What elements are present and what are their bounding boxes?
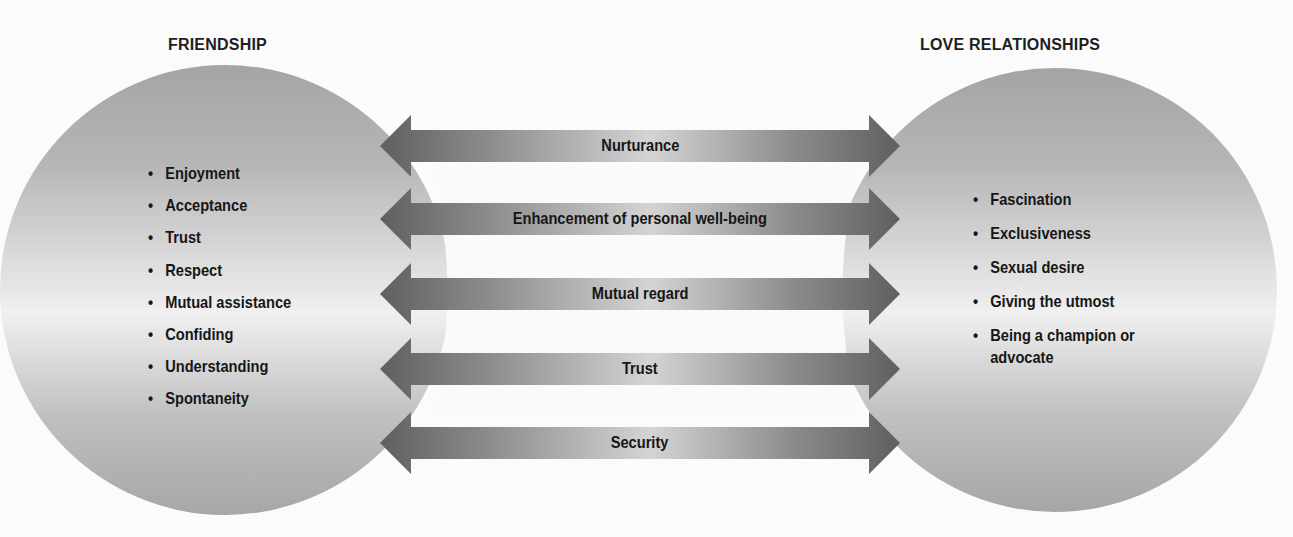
list-item: Being a champion or advocate <box>973 325 1175 369</box>
arrow-label-text: Mutual regard <box>592 283 689 305</box>
list-item: Exclusiveness <box>973 223 1175 257</box>
list-item: Confiding <box>148 324 291 356</box>
arrow-label-text: Security <box>611 432 669 454</box>
list-item: Understanding <box>148 356 291 388</box>
love-relationships-list: Fascination Exclusiveness Sexual desire … <box>973 189 1208 369</box>
arrow-label-text: Trust <box>622 358 658 380</box>
diagram-canvas: FRIENDSHIP LOVE RELATIONSHIPS Enjoyment … <box>0 0 1293 537</box>
friendship-list: Enjoyment Acceptance Trust Respect Mutua… <box>148 163 314 421</box>
arrow-label-text: Enhancement of personal well-being <box>513 208 767 230</box>
list-item: Mutual assistance <box>148 292 291 324</box>
list-item: Acceptance <box>148 195 291 227</box>
list-item: Respect <box>148 260 291 292</box>
list-item: Sexual desire <box>973 257 1175 291</box>
list-item: Fascination <box>973 189 1175 223</box>
friendship-heading: FRIENDSHIP <box>168 36 267 54</box>
shared-trait-label: Mutual regard <box>380 283 900 305</box>
shared-trait-label: Security <box>380 432 900 454</box>
list-item: Giving the utmost <box>973 291 1175 325</box>
shared-trait-label: Trust <box>380 358 900 380</box>
arrow-label-text: Nurturance <box>601 135 679 157</box>
love-relationships-heading: LOVE RELATIONSHIPS <box>920 36 1100 54</box>
shared-trait-label: Enhancement of personal well-being <box>380 208 900 230</box>
list-item: Enjoyment <box>148 163 291 195</box>
shared-trait-label: Nurturance <box>380 135 900 157</box>
list-item: Trust <box>148 227 291 259</box>
list-item: Spontaneity <box>148 388 291 420</box>
